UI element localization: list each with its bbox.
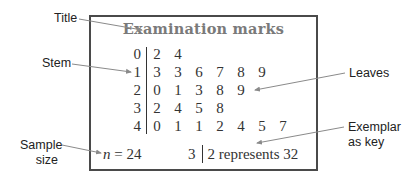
- leaf-value: 2: [213, 117, 227, 135]
- key-text: 2 represents 32: [208, 146, 299, 162]
- leaf-value: 9: [234, 81, 248, 99]
- leaf-value: 3: [171, 63, 185, 81]
- sample-size-symbol: n: [103, 146, 111, 162]
- callout-title: Title: [54, 11, 77, 26]
- callout-exemplar: Exemplar as key: [348, 120, 401, 150]
- leaf-value: 5: [192, 99, 206, 117]
- leaf-value: 2: [150, 99, 164, 117]
- leaf-value: 1: [171, 117, 185, 135]
- leaf-value: 7: [276, 117, 290, 135]
- stem-value: 1: [121, 63, 141, 81]
- leaf-value: 4: [234, 117, 248, 135]
- key-stem: 3: [188, 146, 196, 162]
- stem-value: 2: [121, 81, 141, 99]
- leaf-value: 5: [255, 117, 269, 135]
- stem-value: 4: [121, 117, 141, 135]
- callout-sample-size: Sample size: [20, 138, 58, 168]
- stem-value: 0: [121, 45, 141, 63]
- stem-and-leaf-diagram: Examination marks 0 2 4 1 3 3 6 7 8 9 2 …: [0, 0, 409, 178]
- leaf-value: 0: [150, 81, 164, 99]
- leaf-value: 2: [150, 45, 164, 63]
- callout-sample-line2: size: [20, 153, 58, 168]
- leaf-value: 8: [213, 99, 227, 117]
- leaf-value: 6: [192, 63, 206, 81]
- sample-size-value: 24: [126, 146, 141, 162]
- stem-leaf-divider: [146, 47, 147, 134]
- callout-sample-line1: Sample: [20, 138, 58, 153]
- leaf-value: 1: [192, 117, 206, 135]
- diagram-title: Examination marks: [89, 20, 318, 37]
- leaf-value: 4: [171, 45, 185, 63]
- leaf-value: 4: [171, 99, 185, 117]
- key-exemplar: 32 represents 32: [188, 145, 298, 163]
- leaf-value: 9: [255, 63, 269, 81]
- sample-size: n = 24: [103, 145, 141, 163]
- sample-size-equals: =: [111, 146, 127, 162]
- callout-leaves: Leaves: [349, 66, 389, 81]
- leaf-value: 8: [234, 63, 248, 81]
- leaf-value: 8: [213, 81, 227, 99]
- stem-value: 3: [121, 99, 141, 117]
- callout-stem: Stem: [42, 56, 71, 71]
- leaf-value: 3: [192, 81, 206, 99]
- key-divider: [202, 145, 203, 163]
- leaf-value: 1: [171, 81, 185, 99]
- callout-exemplar-line1: Exemplar: [348, 120, 401, 135]
- callout-exemplar-line2: as key: [348, 135, 401, 150]
- leaf-value: 7: [213, 63, 227, 81]
- leaf-value: 3: [150, 63, 164, 81]
- leaf-value: 0: [150, 117, 164, 135]
